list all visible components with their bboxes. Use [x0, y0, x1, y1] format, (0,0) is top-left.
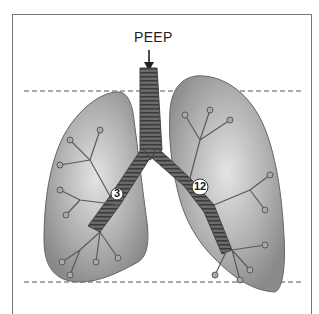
- marker-left-value: 3: [112, 187, 122, 199]
- trachea: [140, 68, 162, 160]
- marker-right-value: 12: [190, 180, 210, 192]
